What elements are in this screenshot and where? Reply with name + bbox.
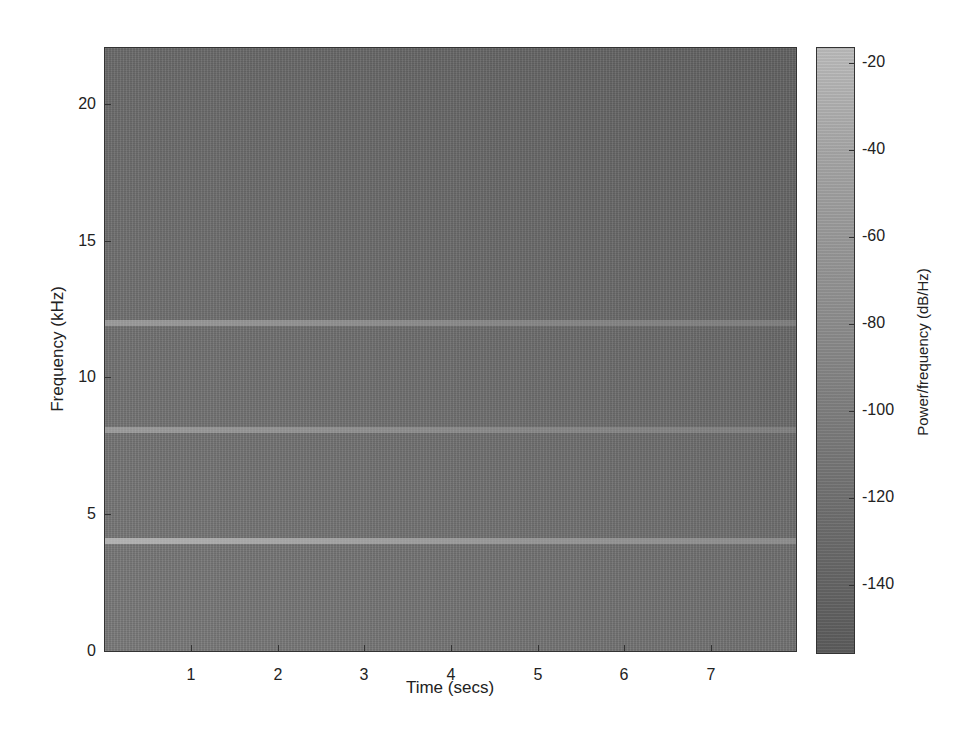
y-tick-label: 10 xyxy=(66,369,96,385)
y-tick-label: 15 xyxy=(66,233,96,249)
colorbar-tick xyxy=(849,411,854,412)
x-tick-label: 7 xyxy=(696,667,726,683)
colorbar-tick xyxy=(849,324,854,325)
y-tick xyxy=(105,104,111,105)
colorbar-tick-label: -60 xyxy=(862,228,885,244)
y-tick xyxy=(105,514,111,515)
colorbar-texture xyxy=(817,48,854,653)
x-axis-title: Time (secs) xyxy=(406,678,494,698)
y-tick-label: 0 xyxy=(66,643,96,659)
colorbar-tick-label: -140 xyxy=(862,576,894,592)
harmonic-line-12khz xyxy=(105,320,796,326)
x-tick-label: 1 xyxy=(176,667,206,683)
y-tick xyxy=(105,377,111,378)
colorbar-tick xyxy=(849,498,854,499)
x-tick xyxy=(624,645,625,651)
colorbar-tick-label: -80 xyxy=(862,315,885,331)
x-tick-label: 2 xyxy=(263,667,293,683)
x-tick xyxy=(451,645,452,651)
y-tick-label: 5 xyxy=(66,506,96,522)
x-tick-label: 3 xyxy=(349,667,379,683)
x-tick-label: 5 xyxy=(523,667,553,683)
x-tick xyxy=(538,645,539,651)
harmonic-line-8khz xyxy=(105,427,796,433)
x-tick xyxy=(711,645,712,651)
spectrogram-plot-area xyxy=(104,47,797,652)
spectrogram-texture xyxy=(105,48,796,651)
colorbar-tick-label: -40 xyxy=(862,141,885,157)
colorbar-title: Power/frequency (dB/Hz) xyxy=(914,268,931,436)
colorbar-tick xyxy=(849,585,854,586)
colorbar-tick xyxy=(849,237,854,238)
colorbar-tick-label: -20 xyxy=(862,54,885,70)
x-tick xyxy=(191,645,192,651)
y-tick xyxy=(105,651,111,652)
colorbar-tick xyxy=(849,63,854,64)
colorbar xyxy=(816,47,855,654)
y-tick-label: 20 xyxy=(66,96,96,112)
x-tick xyxy=(364,645,365,651)
y-tick xyxy=(105,241,111,242)
spectrogram-figure: 0 5 10 15 20 1 2 3 4 5 6 7 Frequency (kH… xyxy=(0,0,974,752)
harmonic-line-4khz xyxy=(105,538,796,544)
colorbar-tick-label: -100 xyxy=(862,402,894,418)
y-axis-title: Frequency (kHz) xyxy=(48,286,68,412)
x-tick-label: 6 xyxy=(609,667,639,683)
colorbar-tick-label: -120 xyxy=(862,489,894,505)
x-tick xyxy=(278,645,279,651)
colorbar-tick xyxy=(849,150,854,151)
